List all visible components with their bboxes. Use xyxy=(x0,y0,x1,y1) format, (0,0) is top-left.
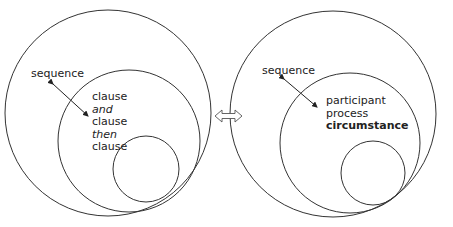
left-line-clause-3: clause xyxy=(92,141,127,154)
left-line-clause-1: clause xyxy=(92,91,127,104)
left-sequence-label: sequence xyxy=(31,68,84,81)
right-line-circumstance: circumstance xyxy=(326,120,409,133)
right-line-participant: participant xyxy=(326,95,409,108)
right-sequence-label: sequence xyxy=(262,65,315,78)
double-arrow-icon xyxy=(215,110,242,122)
right-sequence-arrow xyxy=(284,79,317,107)
left-line-clause-2: clause xyxy=(92,116,127,129)
right-inner-circle xyxy=(341,141,405,205)
right-inner-text: participant process circumstance xyxy=(326,95,409,133)
left-inner-text: clause and clause then clause xyxy=(92,91,127,154)
left-sequence-arrow xyxy=(53,84,88,116)
